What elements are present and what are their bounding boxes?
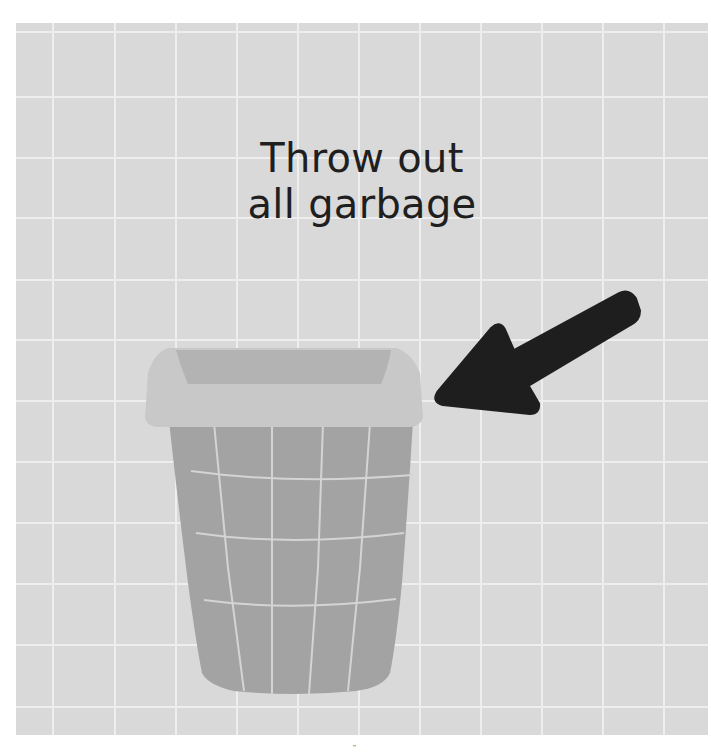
trash-can-icon [145,348,423,694]
illustration-artwork [16,23,708,735]
arrow-icon [437,294,638,412]
footer-mark: " [353,744,359,752]
illustration-panel: Throw out all garbage [16,23,708,735]
